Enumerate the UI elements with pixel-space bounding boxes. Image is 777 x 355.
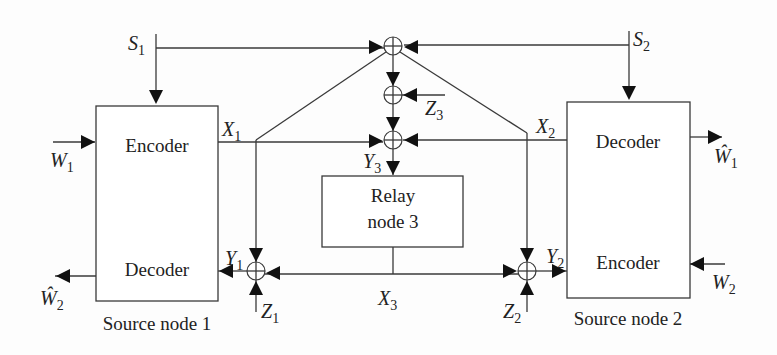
source1-encoder-label: Encoder — [125, 135, 189, 156]
source2-encoder-label: Encoder — [596, 252, 660, 273]
s1-label: S1 — [128, 32, 145, 58]
arrow-z2-up-icon — [520, 281, 534, 295]
s1-arrow-icon — [149, 90, 163, 104]
z2-label: Z2 — [503, 300, 521, 326]
arrow-x1-into-sum-icon — [369, 134, 383, 148]
arrow-down-y2-sum-icon — [520, 248, 534, 262]
relay-channel-diagram: Encoder Decoder Source node 1 Decoder En… — [0, 0, 777, 355]
arrow-down-z3-icon — [386, 72, 400, 86]
z1-label: Z1 — [261, 300, 279, 326]
arrow-w2-in-icon — [690, 257, 704, 271]
arrow-x3-into-y2-sum-icon — [503, 264, 517, 278]
arrow-into-top-sum-right-icon — [404, 40, 418, 54]
x1-label: X1 — [221, 118, 241, 144]
arrow-z1-up-icon — [249, 281, 263, 295]
s2-arrow-icon — [622, 86, 636, 100]
sum-node-y3 — [384, 131, 402, 149]
w1hat-label: Ŵ1 — [714, 144, 738, 171]
x3-label: X3 — [377, 287, 397, 313]
arrow-w1-in-icon — [81, 135, 95, 149]
sum-node-y1 — [247, 262, 265, 280]
w2-label: W2 — [712, 271, 736, 297]
source-node-1-label: Source node 1 — [103, 313, 212, 334]
arrow-x2-into-sum-icon — [404, 133, 418, 147]
relay-label-line2: node 3 — [367, 211, 418, 232]
arrow-down-y1-sum-icon — [249, 248, 263, 262]
arrow-into-relay-icon — [386, 161, 400, 175]
relay-label-line1: Relay — [371, 185, 416, 206]
y3-label: Y3 — [363, 150, 381, 176]
diag-left-line — [256, 52, 386, 140]
s2-label: S2 — [633, 28, 650, 54]
arrow-x3-into-y1-sum-icon — [266, 266, 280, 280]
source2-decoder-label: Decoder — [596, 131, 661, 152]
w1-label: W1 — [50, 149, 74, 175]
z3-label: Z3 — [425, 97, 443, 123]
sum-node-y2 — [518, 262, 536, 280]
sum-node-top — [384, 37, 402, 55]
source1-decoder-label: Decoder — [125, 259, 190, 280]
w2hat-label: Ŵ2 — [40, 286, 64, 313]
source-node-2-label: Source node 2 — [574, 308, 683, 329]
arrow-down-y3-sum-icon — [386, 117, 400, 131]
diag-right-line — [400, 52, 527, 133]
arrow-into-top-sum-left-icon — [369, 40, 383, 54]
x2-label: X2 — [535, 115, 555, 141]
arrow-w1hat-out-icon — [708, 130, 722, 144]
sum-node-z3 — [384, 86, 402, 104]
arrow-z3-icon — [403, 88, 417, 102]
arrow-w2hat-out-icon — [56, 269, 70, 283]
